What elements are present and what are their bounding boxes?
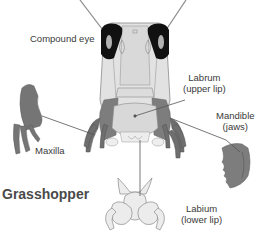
label-labium-desc: (lower lip) (181, 214, 222, 225)
label-mandible-desc: (jaws) (216, 121, 255, 132)
label-labrum: Labrum (upper lip) (183, 72, 226, 94)
label-maxilla: Maxilla (35, 145, 65, 156)
leader-lines (42, 100, 240, 196)
label-mandible-name: Mandible (216, 110, 255, 121)
labium-detail (106, 178, 165, 230)
label-labrum-desc: (upper lip) (183, 83, 226, 94)
label-labrum-name: Labrum (183, 72, 226, 83)
label-mandible: Mandible (jaws) (216, 110, 255, 132)
label-labium: Labium (lower lip) (181, 203, 222, 225)
label-labium-name: Labium (181, 203, 222, 214)
maxilla-detail (13, 84, 42, 154)
mandible-detail (222, 144, 250, 189)
diagram-title: Grasshopper (2, 186, 89, 202)
grasshopper-mouthparts-diagram: Compound eye Labrum (upper lip) Mandible… (0, 0, 268, 247)
label-compound-eye: Compound eye (30, 33, 94, 44)
